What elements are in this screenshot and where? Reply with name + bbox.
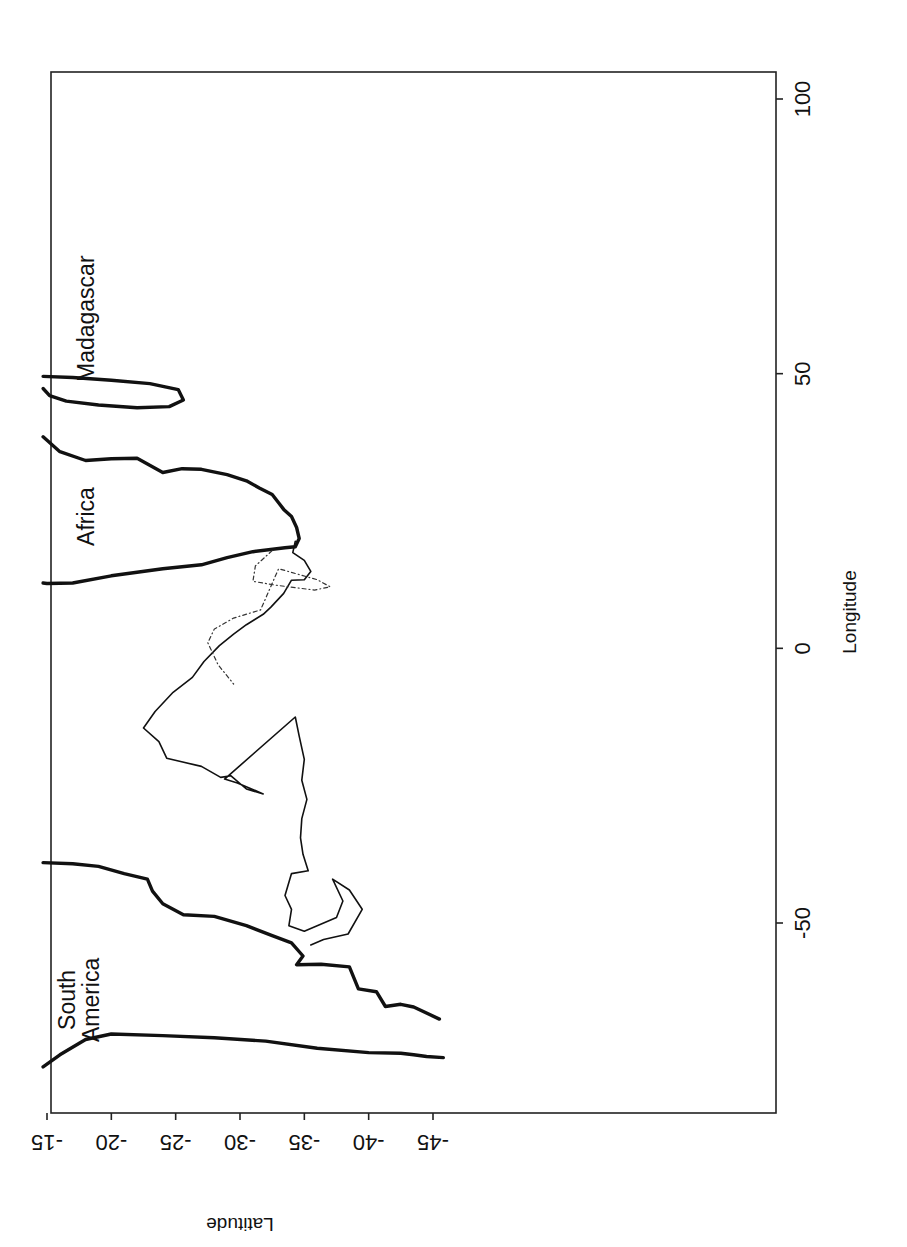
longitude-tick-label: 0 [790, 642, 815, 654]
albatross-track-dotted-line [208, 551, 330, 684]
plot-frame [51, 72, 776, 1113]
longitude-tick-label: 100 [790, 81, 815, 118]
latitude-tick-label: -25 [160, 1130, 192, 1155]
region-label-africa: Africa [73, 487, 99, 546]
latitude-tick-label: -15 [31, 1130, 63, 1155]
latitude-tick-label: -20 [95, 1130, 127, 1155]
track-map-chart: -15-20-25-30-35-40-45 -50050100 Latitude… [0, 0, 907, 1247]
latitude-axis: -15-20-25-30-35-40-45 [31, 1113, 449, 1155]
latitude-tick-label: -45 [417, 1130, 449, 1155]
latitude-axis-label: Latitude [206, 1214, 274, 1235]
region-label-south-america: SouthAmerica [54, 958, 104, 1043]
albatross-track-solid-line [144, 541, 363, 945]
longitude-axis-label: Longitude [839, 570, 860, 653]
region-label-madagascar: Madagascar [73, 255, 99, 382]
latitude-tick-label: -40 [353, 1130, 385, 1155]
madagascar-coastline-line [43, 376, 183, 407]
latitude-tick-label: -35 [288, 1130, 320, 1155]
longitude-tick-label: 50 [790, 361, 815, 385]
region-labels: MadagascarAfricaSouthAmerica [54, 255, 104, 1042]
longitude-axis: -50050100 [776, 81, 815, 939]
latitude-tick-label: -30 [224, 1130, 256, 1155]
longitude-tick-label: -50 [790, 907, 815, 939]
